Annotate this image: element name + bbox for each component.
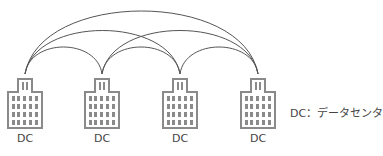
data-center-node xyxy=(160,76,200,130)
link-dc3-dc4 xyxy=(180,47,258,74)
data-center-node xyxy=(5,76,45,130)
building-icon xyxy=(82,76,122,130)
building-icon xyxy=(5,76,45,130)
building-icon xyxy=(160,76,200,130)
dc-label: DC xyxy=(160,132,200,145)
dc-label: DC xyxy=(82,132,122,145)
legend-text: DC：データセンタ xyxy=(290,104,383,120)
data-center-node xyxy=(238,76,278,130)
link-dc2-dc3 xyxy=(102,47,180,74)
data-center-node xyxy=(82,76,122,130)
link-dc1-dc4 xyxy=(25,11,258,74)
dc-label: DC xyxy=(5,132,45,145)
building-icon xyxy=(238,76,278,130)
dc-label: DC xyxy=(238,132,278,145)
link-dc1-dc2 xyxy=(25,47,102,74)
